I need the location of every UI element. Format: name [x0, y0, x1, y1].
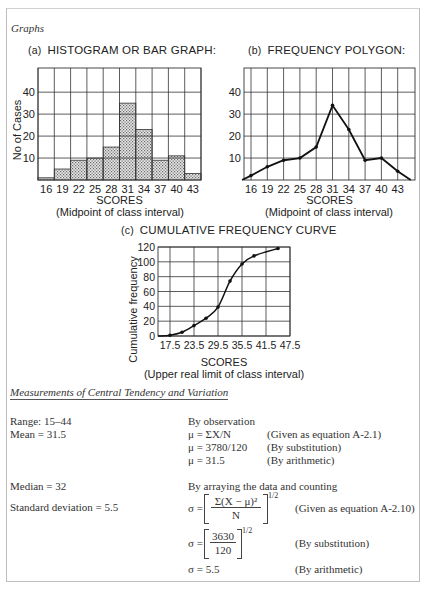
range-text: Range: 15–44 [10, 415, 71, 427]
histogram-bar [185, 173, 201, 180]
y-tick-label: 60 [143, 286, 155, 298]
y-axis-label: No of Cases [11, 99, 23, 160]
y-tick-label: 10 [229, 152, 241, 164]
histogram-xsublabel: (Midpoint of class interval) [20, 206, 220, 218]
sd-numerator-1: Σ(X − μ)² [211, 495, 261, 508]
y-tick-label: 80 [143, 271, 155, 283]
data-point [252, 254, 256, 258]
x-tick-label: 41.5 [256, 339, 277, 351]
median-text: Median = 32 [10, 480, 66, 492]
y-tick-label: 0 [149, 330, 155, 342]
data-point [282, 158, 286, 162]
y-tick-label: 20 [229, 130, 241, 142]
polygon-title-text: FREQUENCY POLYGON: [267, 44, 405, 56]
y-tick-label: 120 [137, 241, 155, 253]
y-axis-label: Cumulative frequency [127, 256, 139, 363]
x-tick-label: 29.5 [208, 339, 229, 351]
x-tick-label: 23.5 [184, 339, 205, 351]
y-tick-label: 30 [229, 108, 241, 120]
sd-eq-3: σ = 5.5 [188, 563, 219, 575]
histogram-chart: 1020304016192225283134374043No of Cases [11, 68, 201, 195]
mean-eq-2: μ = 3780/120 [188, 441, 247, 453]
y-tick-label: 30 [23, 108, 35, 120]
sd-note-2: (By substitution) [295, 537, 369, 549]
data-point [180, 330, 184, 334]
sd-numerator-2: 3630 [210, 530, 236, 543]
sd-lhs-1: σ = [188, 502, 203, 514]
y-tick-label: 20 [143, 315, 155, 327]
sd-bracket-2: 3630 120 [204, 529, 242, 559]
sd-exponent-2: 1/2 [242, 526, 252, 535]
x-tick-label: 47.5 [280, 339, 301, 351]
data-point [331, 104, 335, 108]
sd-lhs-2: σ = [188, 537, 203, 549]
mean-note-1: (Given as equation A-2.1) [267, 428, 381, 440]
x-tick-label: 35.5 [232, 339, 253, 351]
cumulative-title-text: CUMULATIVE FREQUENCY CURVE [140, 224, 337, 236]
mean-method: By observation [188, 415, 255, 427]
cumulative-label: (c) [121, 224, 134, 236]
plot-frame [244, 68, 415, 180]
cumulative-title: (c)CUMULATIVE FREQUENCY CURVE [121, 224, 337, 236]
mean-note-2: (By substitution) [267, 441, 341, 453]
data-point [347, 128, 351, 132]
polygon-xsublabel: (Midpoint of class interval) [229, 206, 428, 218]
histogram-xlabel: SCORES [38, 194, 201, 206]
data-point [314, 145, 318, 149]
y-tick-label: 40 [23, 86, 35, 98]
cumulative-frequency-chart: 17.523.529.535.541.547.5020406080100120C… [127, 241, 300, 363]
data-point [240, 262, 244, 266]
y-tick-label: 40 [229, 86, 241, 98]
mean-note-3: (By arithmetic) [267, 454, 335, 466]
polygon-title: (b)FREQUENCY POLYGON: [248, 44, 405, 56]
mean-eq-1: μ = ΣX/N [188, 428, 231, 440]
sd-denominator-2: 120 [210, 544, 236, 556]
histogram-bar [168, 156, 184, 180]
mean-text: Mean = 31.5 [10, 428, 66, 440]
data-point [204, 316, 208, 320]
data-point [396, 169, 400, 173]
y-tick-label: 20 [23, 130, 35, 142]
data-point [168, 333, 172, 337]
sd-note-3: (By arithmetic) [295, 563, 363, 575]
histogram-bar [54, 169, 70, 180]
measurements-heading: Measurements of Central Tendency and Var… [10, 386, 228, 400]
data-point [266, 165, 270, 169]
sd-exponent-1: 1/2 [268, 491, 278, 500]
cumulative-xsublabel: (Upper real limit of class interval) [104, 368, 344, 380]
data-point [216, 305, 220, 309]
cumulative-xlabel: SCORES [124, 356, 324, 368]
histogram-bar [71, 160, 87, 180]
histogram-bar [136, 129, 152, 180]
data-point [380, 156, 384, 160]
histogram-bar [120, 103, 136, 180]
data-point [228, 279, 232, 283]
polygon-label: (b) [248, 44, 261, 56]
sd-bracket-1: Σ(X − μ)² N [204, 494, 268, 524]
histogram-bar [87, 158, 103, 180]
histogram-bar [152, 160, 168, 180]
y-tick-label: 40 [143, 300, 155, 312]
data-point [192, 324, 196, 328]
y-tick-label: 10 [23, 152, 35, 164]
y-tick-label: 100 [137, 256, 155, 268]
data-point [363, 158, 367, 162]
frequency-polygon-chart: 1020304016192225283134374043 [229, 68, 415, 195]
sd-denominator-1: N [211, 509, 261, 521]
x-tick-label: 17.5 [160, 339, 181, 351]
sd-text: Standard deviation = 5.5 [10, 501, 118, 513]
polygon-xlabel: SCORES [244, 194, 415, 206]
data-point [249, 174, 253, 178]
median-method: By arraying the data and counting [188, 480, 337, 492]
sd-note-1: (Given as equation A-2.10) [295, 502, 415, 514]
data-point [276, 247, 280, 251]
mean-eq-3: μ = 31.5 [188, 454, 225, 466]
data-point [298, 156, 302, 160]
histogram-bar [103, 147, 119, 180]
